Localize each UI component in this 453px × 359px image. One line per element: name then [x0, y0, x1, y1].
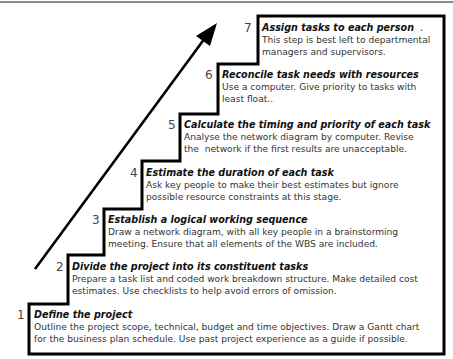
step-2: 2 Divide the project into its constituen… — [72, 261, 418, 297]
step-title: Establish a logical working sequence — [108, 214, 398, 226]
step-number: 1 — [17, 308, 25, 322]
step-description-line: managers and supervisors. — [262, 46, 430, 58]
step-number: 6 — [205, 68, 213, 82]
step-description-line: Outline the project scope, technical, bu… — [34, 321, 419, 333]
step-description-line: possible resource constraints at this st… — [146, 191, 399, 203]
step-description-line: for the business plan schedule. Use past… — [34, 333, 419, 345]
step-description-line: Draw a network diagram, with all key peo… — [108, 226, 398, 238]
step-1: 1 Define the project Outline the project… — [34, 309, 419, 345]
step-title: Calculate the timing and priority of eac… — [184, 119, 430, 131]
step-4: 4 Estimate the duration of each task Ask… — [146, 167, 399, 203]
step-description-line: the network if the first results are una… — [184, 143, 430, 155]
step-title: Define the project — [34, 309, 419, 321]
step-number: 3 — [92, 213, 100, 227]
step-description-line: least float.. — [222, 93, 419, 105]
step-number: 2 — [56, 260, 64, 274]
step-title: Assign tasks to each person . — [262, 22, 430, 34]
step-description-line: estimates. Use checklists to help avoid … — [72, 285, 418, 297]
step-description-line: Ask key people to make their best estima… — [146, 179, 399, 191]
step-number: 7 — [244, 21, 252, 35]
step-description-line: This step is best left to departmental — [262, 34, 430, 46]
step-description-line: meeting. Ensure that all elements of the… — [108, 238, 398, 250]
step-title: Divide the project into its constituent … — [72, 261, 418, 273]
step-5: 5 Calculate the timing and priority of e… — [184, 119, 430, 155]
step-description-line: Analyse the network diagram by computer.… — [184, 131, 430, 143]
step-6: 6 Reconcile task needs with resources Us… — [222, 69, 419, 105]
step-number: 4 — [130, 166, 138, 180]
step-number: 5 — [168, 118, 176, 132]
step-title: Reconcile task needs with resources — [222, 69, 419, 81]
step-title: Estimate the duration of each task — [146, 167, 399, 179]
step-7: 7 Assign tasks to each person . This ste… — [262, 22, 430, 58]
step-3: 3 Establish a logical working sequence D… — [108, 214, 398, 250]
step-description-line: Prepare a task list and coded work break… — [72, 273, 418, 285]
step-description-line: Use a computer. Give priority to tasks w… — [222, 81, 419, 93]
